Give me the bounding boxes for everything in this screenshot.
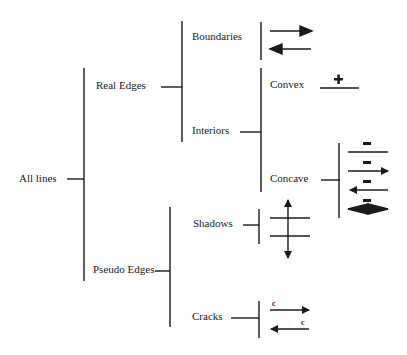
node-pseudo-edges: Pseudo Edges: [93, 263, 154, 275]
node-interiors: Interiors: [192, 124, 229, 136]
node-boundaries: Boundaries: [192, 30, 242, 42]
node-convex: Convex: [270, 78, 304, 90]
node-real-edges: Real Edges: [96, 79, 146, 91]
crack-mark-bottom: c: [301, 319, 305, 327]
crack-mark-top: c: [272, 300, 276, 308]
node-shadows: Shadows: [193, 217, 233, 229]
node-cracks: Cracks: [192, 310, 223, 322]
tree-lines: [0, 0, 407, 355]
node-all-lines: All lines: [19, 172, 57, 184]
node-concave: Concave: [270, 172, 308, 184]
